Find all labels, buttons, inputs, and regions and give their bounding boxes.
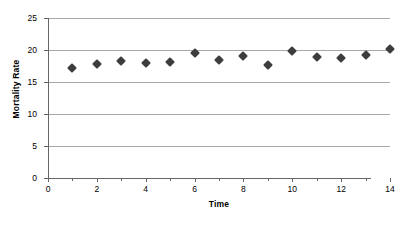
x-tick-label: 2 [82, 184, 112, 194]
gridline [48, 146, 390, 147]
gridline [48, 114, 390, 115]
y-axis-line [48, 18, 49, 178]
data-point-marker [385, 44, 395, 54]
y-tick-label: 10 [0, 109, 37, 119]
data-point-marker [312, 52, 322, 62]
data-point-marker [238, 51, 248, 61]
x-axis-title: Time [48, 199, 390, 209]
data-point-marker [214, 55, 224, 65]
data-point-marker [361, 50, 371, 60]
x-tick-label: 14 [375, 184, 400, 194]
x-tick-label: 6 [180, 184, 210, 194]
x-tick-label: 8 [228, 184, 258, 194]
data-point-marker [287, 46, 297, 56]
x-tick-label: 10 [277, 184, 307, 194]
gridline [48, 82, 390, 83]
y-tick-label: 0 [0, 173, 37, 183]
y-tick-label: 15 [0, 77, 37, 87]
data-point-marker [116, 56, 126, 66]
data-point-marker [165, 57, 175, 67]
plot-area: 0510152025 02468101214 [48, 18, 390, 178]
y-tick-label: 25 [0, 13, 37, 23]
x-tick-mark [390, 178, 391, 182]
gridline [48, 50, 390, 51]
x-axis-line [48, 178, 371, 179]
x-tick-label: 12 [326, 184, 356, 194]
data-point-marker [263, 60, 273, 70]
data-point-marker [67, 63, 77, 73]
data-point-marker [92, 59, 102, 69]
data-point-marker [336, 53, 346, 63]
y-axis-title: Mortality Rate [6, 0, 24, 178]
data-point-marker [141, 58, 151, 68]
chart-figure: Mortality Rate 0510152025 02468101214 Ti… [0, 0, 400, 225]
x-tick-label: 4 [131, 184, 161, 194]
gridline [48, 18, 390, 19]
y-tick-label: 5 [0, 141, 37, 151]
y-tick-label: 20 [0, 45, 37, 55]
x-tick-label: 0 [33, 184, 63, 194]
